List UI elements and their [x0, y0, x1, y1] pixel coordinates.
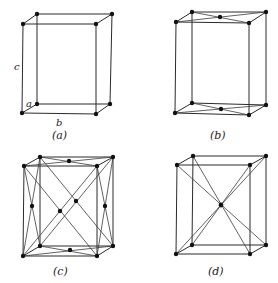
panel-b: (b) — [173, 10, 268, 142]
lattice-points — [21, 155, 115, 258]
lattice-diagram: c a b (a) (b) — [0, 0, 278, 283]
axis-label-c: c — [14, 61, 20, 72]
panel-a: c a b (a) — [14, 12, 114, 142]
axis-label-a: a — [26, 98, 32, 109]
panel-label-b: (b) — [210, 129, 226, 142]
lattice-points — [20, 12, 114, 116]
panel-label-c: (c) — [53, 265, 68, 278]
axis-label-b: b — [56, 117, 62, 128]
panel-label-a: (a) — [52, 129, 67, 142]
panel-label-d: (d) — [208, 265, 224, 278]
lattice-points — [173, 10, 268, 117]
panel-c: (c) — [21, 155, 115, 278]
panel-d: (d) — [174, 154, 268, 278]
